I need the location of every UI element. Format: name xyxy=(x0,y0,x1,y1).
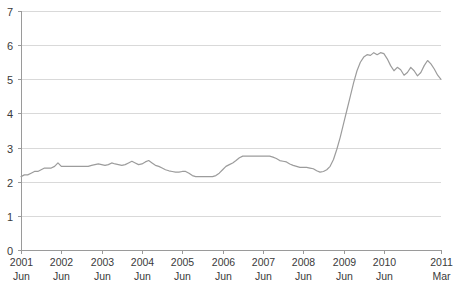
x-tick-label-year-2006: 2006 xyxy=(212,256,236,268)
x-tick-label-month-2002: Jun xyxy=(53,270,70,282)
x-tick-label-year-2008: 2008 xyxy=(292,256,316,268)
line-chart: 01234567 2001Jun2002Jun2003Jun2004Jun200… xyxy=(0,0,454,290)
y-tick-label-0: 0 xyxy=(7,245,13,257)
x-tick-label-year-2007: 2007 xyxy=(252,256,276,268)
y-tick-label-7: 7 xyxy=(7,6,13,18)
y-tick-label-4: 4 xyxy=(7,108,13,120)
x-tick-label-month-2009: Jun xyxy=(336,270,353,282)
data-series-line xyxy=(21,53,441,177)
x-tick-label-year-2011: 2011 xyxy=(430,256,453,268)
x-tick-label-month-2001: Jun xyxy=(13,270,30,282)
x-tick-label-month-2003: Jun xyxy=(94,270,111,282)
x-tick-label-month-2011: Mar xyxy=(432,270,451,282)
y-tick-label-2: 2 xyxy=(7,177,13,189)
x-tick-label-year-2009: 2009 xyxy=(333,256,357,268)
y-axis-tick-labels: 01234567 xyxy=(7,6,13,257)
x-tick-label-year-2004: 2004 xyxy=(131,256,155,268)
y-tick-label-1: 1 xyxy=(7,211,13,223)
chart-canvas: 01234567 2001Jun2002Jun2003Jun2004Jun200… xyxy=(0,0,454,290)
x-axis-tick-labels: 2001Jun2002Jun2003Jun2004Jun2005Jun2006J… xyxy=(10,256,453,282)
x-tick-label-month-2006: Jun xyxy=(215,270,232,282)
y-axis-tick-marks xyxy=(18,12,21,251)
y-tick-label-6: 6 xyxy=(7,40,13,52)
x-tick-label-month-2010: Jun xyxy=(376,270,393,282)
x-tick-label-year-2005: 2005 xyxy=(171,256,195,268)
x-tick-label-year-2001: 2001 xyxy=(10,256,34,268)
y-tick-label-5: 5 xyxy=(7,74,13,86)
y-tick-label-3: 3 xyxy=(7,143,13,155)
x-tick-label-month-2005: Jun xyxy=(174,270,191,282)
gridlines xyxy=(21,12,441,251)
x-tick-label-month-2007: Jun xyxy=(255,270,272,282)
x-tick-label-year-2010: 2010 xyxy=(373,256,397,268)
x-tick-label-year-2002: 2002 xyxy=(50,256,74,268)
x-tick-label-month-2008: Jun xyxy=(295,270,312,282)
x-tick-label-month-2004: Jun xyxy=(134,270,151,282)
x-tick-label-year-2003: 2003 xyxy=(91,256,115,268)
